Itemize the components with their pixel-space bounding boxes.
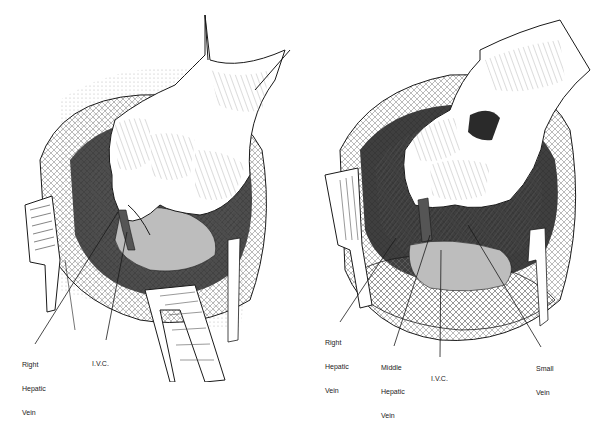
left-right-hepatic-vein-label: Right Hepatic Vein bbox=[22, 345, 46, 422]
right-ivc-label: I.V.C. bbox=[431, 359, 448, 399]
right-right-hepatic-vein-label: Right Hepatic Vein bbox=[325, 323, 349, 411]
left-ivc-label: I.V.C. bbox=[92, 344, 109, 384]
left-panel bbox=[25, 15, 290, 382]
small-vein-label: Small Vein bbox=[536, 349, 554, 413]
middle-hepatic-vein-label: Middle Hepatic Vein bbox=[381, 348, 405, 422]
right-panel bbox=[325, 20, 590, 357]
